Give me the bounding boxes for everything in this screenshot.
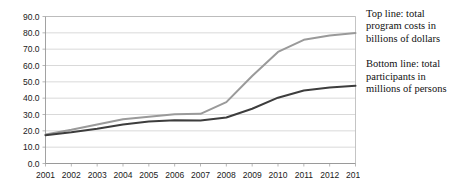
x-tick-label: 2010 xyxy=(269,170,288,180)
y-tick-label: 80.0 xyxy=(23,28,40,38)
x-tick-label: 2012 xyxy=(320,170,339,180)
plot-container: 0.010.020.030.040.050.060.070.080.090.0 … xyxy=(0,0,360,194)
x-tick-label: 2003 xyxy=(88,170,107,180)
y-tick-label: 30.0 xyxy=(23,110,40,120)
series-line-total-participants xyxy=(46,86,356,135)
x-axis-tick-labels: 2001200220032004200520062007200820092010… xyxy=(36,170,360,180)
y-tick-label: 90.0 xyxy=(23,12,40,22)
y-tick-label: 50.0 xyxy=(23,77,40,87)
x-tick-label: 2009 xyxy=(243,170,262,180)
x-tick-label: 2001 xyxy=(36,170,55,180)
y-tick-marks xyxy=(43,17,46,164)
x-tick-marks xyxy=(46,164,356,167)
x-tick-label: 2008 xyxy=(217,170,236,180)
y-tick-label: 60.0 xyxy=(23,61,40,71)
y-tick-label: 40.0 xyxy=(23,93,40,103)
x-tick-label: 2005 xyxy=(139,170,158,180)
y-tick-label: 0.0 xyxy=(28,159,40,169)
x-tick-label: 2006 xyxy=(165,170,184,180)
y-tick-label: 10.0 xyxy=(23,142,40,152)
legend-entry-program-costs: Top line: total program costs in billion… xyxy=(366,8,466,45)
line-chart: 0.010.020.030.040.050.060.070.080.090.0 … xyxy=(0,0,360,194)
y-tick-label: 70.0 xyxy=(23,44,40,54)
y-tick-label: 20.0 xyxy=(23,126,40,136)
chart-figure: 0.010.020.030.040.050.060.070.080.090.0 … xyxy=(0,0,467,194)
series-line-program-costs xyxy=(46,33,356,134)
x-tick-label: 2002 xyxy=(62,170,81,180)
y-axis-tick-labels: 0.010.020.030.040.050.060.070.080.090.0 xyxy=(23,12,40,169)
data-series-group xyxy=(46,33,356,135)
x-tick-label: 2007 xyxy=(191,170,210,180)
x-tick-label: 2011 xyxy=(295,170,314,180)
x-tick-label: 2013 xyxy=(346,170,360,180)
x-tick-label: 2004 xyxy=(114,170,133,180)
legend-entry-total-participants: Bottom line: total participants in milli… xyxy=(366,58,466,95)
legend: Top line: total program costs in billion… xyxy=(366,8,466,108)
